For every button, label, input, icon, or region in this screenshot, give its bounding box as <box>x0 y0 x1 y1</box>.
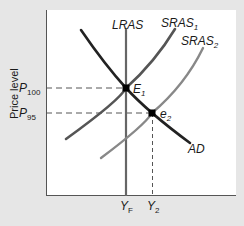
p95-tick-label: P95 <box>19 106 36 122</box>
e1-point <box>123 85 130 92</box>
yf-tick-label: YF <box>120 199 133 215</box>
e2-point <box>149 110 156 117</box>
lras-label: LRAS <box>112 18 143 32</box>
p100-tick-label: P100 <box>19 81 41 97</box>
sras2-label: SRAS2 <box>181 34 219 50</box>
as-ad-chart: LRAS SRAS1 SRAS2 AD E1 e2 P100 P95 YF Y2… <box>0 0 244 226</box>
y2-tick-label: Y2 <box>147 199 160 215</box>
sras1-label: SRAS1 <box>161 16 198 32</box>
ad-label: AD <box>187 142 205 156</box>
y-axis-title: Price level <box>8 68 20 119</box>
